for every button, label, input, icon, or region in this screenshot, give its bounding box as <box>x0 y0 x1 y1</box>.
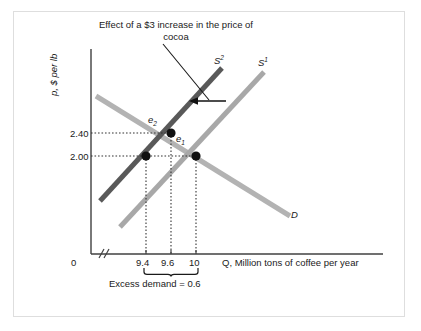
point-label-e1-subscript: 1 <box>181 139 185 146</box>
point-e1 <box>191 151 200 160</box>
annotation-text: Effect of a $3 increase in the price of … <box>96 19 256 43</box>
chart-figure: Effect of a $3 increase in the price of … <box>0 0 421 331</box>
excess-demand-brace <box>144 268 198 277</box>
excess-demand-label: Excess demand = 0.6 <box>109 278 201 290</box>
y-tick-label-240: 2.40 <box>70 128 89 140</box>
y-axis-label: p, $ per lb <box>48 54 60 96</box>
point-quantity-supplied <box>141 151 150 160</box>
curve-label-s1-superscript: 1 <box>264 56 268 63</box>
x-tick-label-10: 10 <box>189 257 200 269</box>
chart-plot-area <box>0 0 421 331</box>
point-e2 <box>166 128 175 137</box>
supply-curve-s1 <box>120 72 264 227</box>
curve-label-d: D <box>291 209 298 221</box>
curve-label-s1: S1 <box>258 54 268 69</box>
curve-label-s2: S2 <box>214 52 224 67</box>
curve-label-s2-superscript: 2 <box>220 54 224 61</box>
point-label-e2: e2 <box>148 114 157 129</box>
y-tick-label-200: 2.00 <box>70 151 89 163</box>
annotation-leader-line <box>163 44 209 100</box>
point-label-e1: e1 <box>176 133 185 148</box>
x-tick-label-96: 9.6 <box>161 257 174 269</box>
origin-label: 0 <box>71 257 76 269</box>
x-axis-label: Q, Million tons of coffee per year <box>222 257 359 269</box>
x-tick-label-94: 9.4 <box>136 257 149 269</box>
point-label-e2-subscript: 2 <box>153 120 157 127</box>
